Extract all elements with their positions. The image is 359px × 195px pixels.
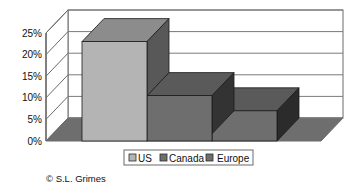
copyright-credit: © S.L. Grimes: [46, 173, 106, 184]
legend-swatch-europe: [206, 154, 213, 161]
bar-chart-3d: 25% 20% 15% 10% 5% 0%: [0, 0, 359, 195]
chart-container: 25% 20% 15% 10% 5% 0%: [0, 0, 359, 195]
legend-label-canada: Canada: [169, 153, 204, 164]
y-tick-label-25: 25%: [22, 28, 42, 39]
y-tick-label-15: 15%: [22, 71, 42, 82]
y-tick-label-5: 5%: [28, 114, 43, 125]
legend: US Canada Europe: [124, 150, 253, 165]
legend-swatch-canada: [160, 154, 167, 161]
y-tick-label-0: 0%: [28, 136, 43, 147]
y-tick-label-20: 20%: [22, 49, 42, 60]
legend-swatch-us: [129, 154, 136, 161]
y-tick-label-10: 10%: [22, 92, 42, 103]
bar-us-front: [82, 42, 147, 141]
y-axis-tick-labels: 25% 20% 15% 10% 5% 0%: [22, 28, 42, 147]
legend-label-europe: Europe: [217, 153, 250, 164]
legend-label-us: US: [138, 153, 152, 164]
bar-canada-front: [147, 96, 212, 141]
